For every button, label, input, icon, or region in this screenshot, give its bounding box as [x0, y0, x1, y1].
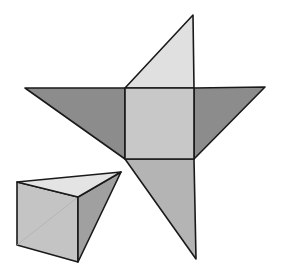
net-bottom-triangle [125, 159, 196, 259]
net-top-triangle [125, 15, 194, 88]
prism [17, 172, 121, 262]
diagram-canvas [0, 0, 281, 278]
net-left-triangle [25, 88, 125, 159]
net-right-triangle [194, 87, 265, 159]
net-square-face [125, 88, 194, 159]
prism-net-diagram [0, 0, 281, 278]
